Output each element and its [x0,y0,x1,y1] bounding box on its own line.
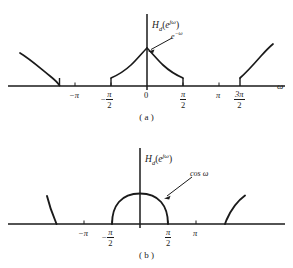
panel-b-tick-half-pi-frac: π 2 [165,228,171,247]
panel-a-tick-three-half-pi-den: 2 [237,100,241,109]
panel-b-tick-half-pi-den: 2 [166,238,170,247]
panel-b-tick-label-neg-pi: −π [78,229,88,238]
panel-a-response-close-paren: ) [176,20,179,30]
panel-b-annotation-arrow [164,177,192,200]
panel-b-curve-right-replica [225,196,245,225]
panel-a-tick-label-half-pi: π 2 [180,90,186,109]
panel-a-curve-right-replica [240,44,273,78]
panel-b-curve-annotation: cos ω [190,170,208,178]
panel-b: Hd(ejω) cos ω −π − π 2 π 2 π ( b ) [0,134,293,268]
panel-a-axis-label-omega: ω [277,82,283,91]
panel-b-curve-left-replica [47,196,57,224]
panel-a-annotation-arrow [148,38,172,53]
figure-root: Hd(ejω) e−ω −π − π 2 0 π 2 π 3π 2 [0,0,293,268]
panel-b-response-base: H [145,154,152,164]
panel-b-tick-neg-half-pi-sign: − [102,233,107,242]
panel-b-tick-label-neg-half-pi: − π 2 [102,228,114,247]
panel-a-caption: ( a ) [0,113,293,122]
panel-a-tick-neg-half-pi-den: 2 [107,100,111,109]
panel-a-tick-label-neg-pi: −π [69,91,79,100]
panel-a-tick-neg-half-pi-frac: π 2 [106,90,112,109]
panel-a-tick-label-neg-half-pi: − π 2 [101,90,113,109]
panel-a-response-base: H [152,20,159,30]
panel-a-curve-left-replica [20,53,60,86]
panel-b-caption: ( b ) [0,251,293,260]
panel-a-curve-annotation-sup: −ω [175,30,183,36]
panel-a-tick-half-pi-num: π [180,90,186,100]
panel-a-tick-neg-half-pi-num: π [106,90,112,100]
panel-b-tick-neg-half-pi-num: π [107,228,113,238]
panel-b-tick-neg-half-pi-frac: π 2 [107,228,113,247]
panel-b-tick-half-pi-num: π [165,228,171,238]
panel-a-tick-label-zero: 0 [144,91,148,100]
panel-a-curve-annotation: e−ω [171,31,183,41]
panel-b-tick-label-pi: π [193,229,197,238]
panel-b-response-label: Hd(ejω) [145,153,172,167]
panel-a-tick-half-pi-den: 2 [181,100,185,109]
panel-b-tick-label-half-pi: π 2 [165,228,171,247]
panel-a-tick-half-pi-frac: π 2 [180,90,186,109]
panel-b-tick-neg-half-pi-den: 2 [108,238,112,247]
panel-a-tick-label-three-half-pi: 3π 2 [234,90,245,109]
panel-a-tick-neg-half-pi-sign: − [101,95,106,104]
panel-a-curve-main-left [111,48,147,78]
panel-a: Hd(ejω) e−ω −π − π 2 0 π 2 π 3π 2 [0,0,293,134]
panel-a-tick-three-half-pi-frac: 3π 2 [234,90,245,109]
panel-a-tick-label-pi: π [216,91,220,100]
panel-a-tick-three-half-pi-num: 3π [234,90,245,100]
panel-b-response-close-paren: ) [169,154,172,164]
